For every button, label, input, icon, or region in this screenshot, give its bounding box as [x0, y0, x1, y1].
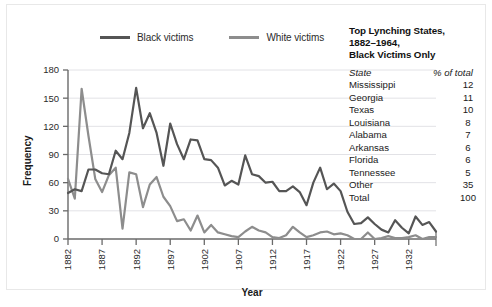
- table-title-line-1: Top Lynching States,: [349, 25, 485, 37]
- table-title: Top Lynching States, 1882–1964, Black Vi…: [349, 25, 485, 62]
- x-axis-ticks: 1882188718921897190219071912191719221927…: [62, 239, 414, 270]
- x-tick-label: 1897: [165, 249, 176, 270]
- table-cell-state: Total: [349, 192, 369, 205]
- table-header-pct: % of total: [433, 67, 485, 80]
- x-tick-label: 1912: [267, 249, 278, 270]
- table-cell-pct: 12: [451, 79, 485, 92]
- x-tick-label: 1927: [369, 249, 380, 270]
- table-row: Georgia11: [349, 92, 485, 105]
- table-row: Total100: [349, 192, 485, 205]
- x-tick-label: 1922: [335, 249, 346, 270]
- table-row: Arkansas6: [349, 142, 485, 155]
- y-tick-label: 90: [48, 149, 59, 160]
- table-cell-pct: 11: [451, 92, 485, 105]
- y-axis-ticks: 0306090120150180: [43, 64, 68, 244]
- x-tick-label: 1907: [233, 249, 244, 270]
- table-body: Mississippi12Georgia11Texas10Louisiana8A…: [349, 79, 485, 204]
- table-cell-state: Mississippi: [349, 79, 395, 92]
- table-cell-pct: 7: [451, 129, 485, 142]
- y-tick-label: 0: [54, 233, 59, 244]
- table-row: Alabama7: [349, 129, 485, 142]
- table-cell-state: Louisiana: [349, 117, 390, 130]
- table-row: Mississippi12: [349, 79, 485, 92]
- x-tick-label: 1882: [62, 249, 73, 270]
- table-cell-pct: 5: [451, 167, 485, 180]
- table-cell-state: Florida: [349, 154, 378, 167]
- x-tick-label: 1887: [96, 249, 107, 270]
- figure-root: Black victims White victims 030609012015…: [0, 0, 492, 307]
- table-row: Tennessee5: [349, 167, 485, 180]
- table-row: Texas10: [349, 104, 485, 117]
- y-tick-label: 180: [43, 64, 59, 75]
- table-row: Florida6: [349, 154, 485, 167]
- table-row: Louisiana8: [349, 117, 485, 130]
- table-title-line-3: Black Victims Only: [349, 49, 485, 61]
- table-cell-pct: 100: [451, 192, 485, 205]
- y-axis-title: Frequency: [22, 135, 33, 186]
- table-cell-state: Alabama: [349, 129, 387, 142]
- table-cell-pct: 6: [451, 154, 485, 167]
- table-cell-pct: 35: [451, 179, 485, 192]
- y-tick-label: 30: [48, 205, 59, 216]
- table-cell-state: Texas: [349, 104, 374, 117]
- y-tick-label: 150: [43, 93, 59, 104]
- y-tick-label: 60: [48, 177, 59, 188]
- x-tick-label: 1892: [131, 249, 142, 270]
- x-tick-label: 1917: [301, 249, 312, 270]
- table-cell-pct: 6: [451, 142, 485, 155]
- table-cell-pct: 10: [451, 104, 485, 117]
- table-title-line-2: 1882–1964,: [349, 37, 485, 49]
- x-tick-label: 1932: [403, 249, 414, 270]
- x-tick-label: 1902: [199, 249, 210, 270]
- table-cell-state: Arkansas: [349, 142, 389, 155]
- table-row: Other35: [349, 179, 485, 192]
- table-header-row: State % of total: [349, 67, 485, 80]
- table-cell-state: Georgia: [349, 92, 383, 105]
- table-header-state: State: [349, 67, 371, 80]
- top-lynching-states-table: Top Lynching States, 1882–1964, Black Vi…: [349, 25, 485, 204]
- table-cell-state: Tennessee: [349, 167, 395, 180]
- table-cell-state: Other: [349, 179, 373, 192]
- y-tick-label: 120: [43, 121, 59, 132]
- table-cell-pct: 8: [451, 117, 485, 130]
- x-axis-title: Year: [241, 287, 262, 298]
